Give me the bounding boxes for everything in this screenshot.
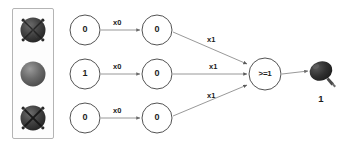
sphere-spoked-icon bbox=[21, 18, 46, 43]
weight-input-3-label: x0 bbox=[113, 106, 121, 115]
weight-hidden-3-label: x1 bbox=[207, 91, 215, 100]
hidden-node-3[interactable] bbox=[142, 103, 172, 133]
sphere-plain-icon bbox=[21, 62, 46, 87]
hidden-node-1[interactable] bbox=[142, 15, 172, 45]
weight-hidden-2-label: x1 bbox=[209, 62, 217, 71]
diagram-canvas: 0 1 0 0 0 0 x0 x0 x0 x1 x1 x1 >=1 1 bbox=[0, 0, 351, 147]
balloon-bulb-icon bbox=[307, 58, 336, 87]
input-node-1[interactable] bbox=[70, 15, 100, 45]
input-node-3[interactable] bbox=[70, 103, 100, 133]
edge-hidden3-threshold bbox=[173, 85, 247, 116]
threshold-node[interactable] bbox=[249, 58, 281, 90]
input-node-2[interactable] bbox=[70, 59, 100, 89]
weight-hidden-1-label: x1 bbox=[207, 35, 215, 44]
diagram-vector-layer bbox=[0, 0, 351, 147]
hidden-node-2[interactable] bbox=[142, 59, 172, 89]
weight-input-2-label: x0 bbox=[113, 62, 121, 71]
sphere-crossed-icon bbox=[21, 106, 46, 131]
edge-threshold-output bbox=[282, 71, 308, 74]
weight-input-1-label: x0 bbox=[113, 18, 121, 27]
